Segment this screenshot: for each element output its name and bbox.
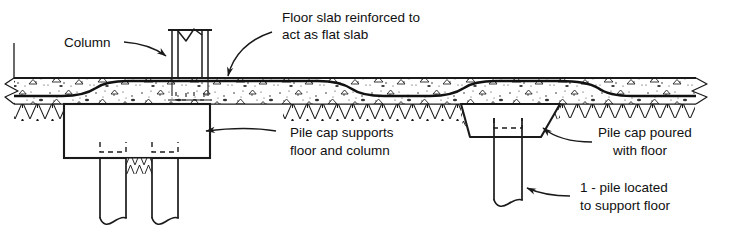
label-floor-slab-line1: Floor slab reinforced to bbox=[282, 10, 420, 25]
label-pile-cap-right-line2: with floor bbox=[612, 143, 668, 158]
label-pile-cap-left-line2: floor and column bbox=[290, 143, 390, 158]
label-pile-cap-right-line1: Pile cap poured bbox=[598, 125, 692, 140]
label-column: Column bbox=[64, 35, 111, 50]
label-floor-slab-line2: act as flat slab bbox=[282, 27, 368, 42]
pile-cap-left bbox=[64, 104, 210, 174]
floor-slab bbox=[14, 78, 696, 104]
pile-supported-slab-diagram: Column Floor slab reinforced to act as f… bbox=[0, 0, 743, 234]
label-single-pile-line1: 1 - pile located bbox=[580, 180, 668, 195]
pile bbox=[100, 158, 126, 224]
label-pile-cap-left-line1: Pile cap supports bbox=[290, 125, 394, 140]
pile bbox=[152, 158, 178, 224]
label-single-pile-line2: to support floor bbox=[580, 198, 671, 213]
pile-cap-right bbox=[461, 104, 560, 137]
